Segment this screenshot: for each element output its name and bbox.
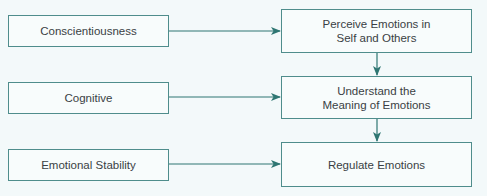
node-conscientiousness: Conscientiousness bbox=[8, 15, 169, 47]
node-label: Regulate Emotions bbox=[328, 158, 425, 172]
node-understand-meaning: Understand the Meaning of Emotions bbox=[281, 76, 472, 119]
node-cognitive: Cognitive bbox=[8, 82, 169, 114]
node-label: Understand the Meaning of Emotions bbox=[314, 84, 439, 112]
node-label: Conscientiousness bbox=[40, 24, 137, 38]
node-label: Perceive Emotions in Self and Others bbox=[322, 17, 431, 45]
node-label: Cognitive bbox=[65, 91, 113, 105]
node-emotional-stability: Emotional Stability bbox=[8, 149, 169, 181]
node-label: Emotional Stability bbox=[41, 158, 136, 172]
node-regulate-emotions: Regulate Emotions bbox=[281, 142, 472, 187]
node-perceive-emotions: Perceive Emotions in Self and Others bbox=[281, 9, 472, 53]
